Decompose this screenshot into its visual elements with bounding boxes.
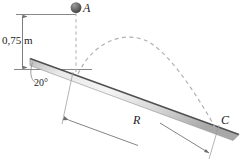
physics-figure: A 0,75 m 20° R C — [0, 0, 246, 164]
inclined-plane — [30, 59, 239, 141]
label-drop-height: 0,75 m — [2, 35, 33, 46]
label-incline-angle: 20° — [34, 78, 48, 88]
label-point-a: A — [83, 2, 90, 14]
incline-bottom-edge — [30, 66, 233, 141]
label-range: R — [133, 114, 140, 126]
label-point-c: C — [221, 114, 229, 126]
range-start-extension — [62, 72, 73, 124]
range-dimension-line — [69, 120, 139, 146]
ball-at-a — [71, 2, 82, 13]
